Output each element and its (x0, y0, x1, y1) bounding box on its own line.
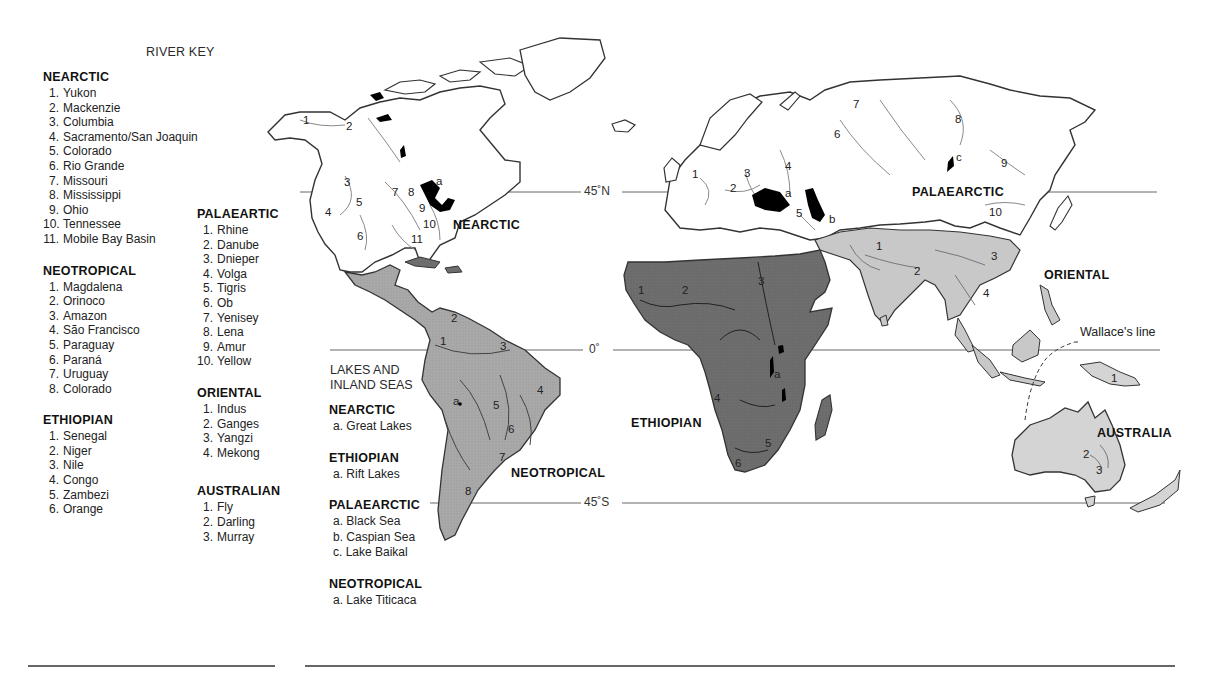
svg-text:3: 3 (758, 275, 764, 287)
svg-text:6: 6 (834, 128, 840, 140)
svg-text:c: c (956, 151, 962, 163)
svg-text:10: 10 (423, 218, 436, 230)
lake-item: a. Lake Titicaca (329, 593, 422, 609)
continent-north-america (268, 38, 635, 273)
lake-group-ethiopian: ETHIOPIAN a. Rift Lakes (329, 451, 422, 483)
latitude-label-45s: 45˚S (581, 495, 612, 509)
svg-text:2: 2 (730, 182, 736, 194)
svg-text:2: 2 (451, 312, 457, 324)
svg-text:7: 7 (853, 98, 859, 110)
svg-text:4: 4 (714, 392, 721, 404)
svg-text:2: 2 (346, 120, 352, 132)
svg-text:1: 1 (1111, 372, 1117, 384)
realm-label-ethiopian: ETHIOPIAN (631, 416, 702, 430)
svg-text:9: 9 (419, 202, 425, 214)
svg-text:4: 4 (325, 206, 332, 218)
realm-heading: PALAEARCTIC (329, 498, 422, 512)
lake-item: b. Caspian Sea (329, 530, 422, 546)
svg-text:6: 6 (735, 457, 741, 469)
svg-text:8: 8 (955, 113, 961, 125)
svg-text:10: 10 (989, 206, 1002, 218)
lakes-key: NEARCTIC a. Great Lakes ETHIOPIAN a. Rif… (329, 403, 422, 608)
svg-text:8: 8 (465, 485, 471, 497)
lakes-key-title: LAKES AND INLAND SEAS (330, 363, 413, 393)
lake-item: a. Great Lakes (329, 419, 422, 435)
bottom-rule-left (28, 665, 275, 667)
region-oriental (815, 228, 1060, 386)
svg-text:a: a (436, 175, 443, 187)
svg-text:a: a (774, 368, 781, 380)
svg-text:6: 6 (357, 230, 363, 242)
svg-text:1: 1 (303, 114, 309, 126)
continent-eurasia (664, 76, 1095, 240)
svg-text:1: 1 (638, 284, 644, 296)
svg-text:3: 3 (991, 250, 997, 262)
svg-text:7: 7 (499, 451, 505, 463)
svg-text:8: 8 (408, 186, 414, 198)
lake-item: a. Black Sea (329, 514, 422, 530)
svg-text:7: 7 (392, 186, 398, 198)
latitude-label-45n: 45˚N (581, 184, 613, 198)
lake-group-nearctic: NEARCTIC a. Great Lakes (329, 403, 422, 435)
world-map: 1234 5678 91011a 1234 5678a 1234 56a 123… (0, 0, 1210, 685)
svg-text:4: 4 (983, 287, 990, 299)
svg-text:a: a (453, 395, 460, 407)
realm-heading: ETHIOPIAN (329, 451, 422, 465)
svg-text:5: 5 (356, 196, 362, 208)
realm-heading: NEARCTIC (329, 403, 422, 417)
svg-text:b: b (829, 213, 835, 225)
svg-text:5: 5 (796, 207, 802, 219)
lake-item: c. Lake Baikal (329, 545, 422, 561)
realm-label-nearctic: NEARCTIC (453, 218, 520, 232)
svg-text:2: 2 (914, 265, 920, 277)
svg-text:2: 2 (1083, 448, 1089, 460)
svg-text:5: 5 (765, 437, 771, 449)
realm-heading: NEOTROPICAL (329, 577, 422, 591)
svg-text:3: 3 (500, 340, 506, 352)
svg-text:4: 4 (785, 160, 792, 172)
lake-item: a. Rift Lakes (329, 467, 422, 483)
svg-text:3: 3 (744, 167, 750, 179)
svg-text:6: 6 (508, 423, 514, 435)
wallaces-line-label: Wallace's line (1080, 325, 1156, 339)
svg-text:9: 9 (1001, 157, 1007, 169)
svg-text:3: 3 (1096, 464, 1102, 476)
realm-label-oriental: ORIENTAL (1044, 268, 1109, 282)
svg-text:1: 1 (440, 335, 446, 347)
svg-text:11: 11 (411, 233, 423, 245)
svg-text:3: 3 (344, 176, 350, 188)
svg-text:4: 4 (537, 384, 544, 396)
svg-text:2: 2 (682, 284, 688, 296)
region-ethiopian (624, 250, 832, 472)
svg-text:5: 5 (493, 399, 499, 411)
realm-label-australia: AUSTRALIA (1097, 426, 1172, 440)
svg-text:a: a (785, 187, 792, 199)
svg-text:1: 1 (876, 240, 882, 252)
lake-group-neotropical: NEOTROPICAL a. Lake Titicaca (329, 577, 422, 609)
realm-label-palaearctic: PALAEARCTIC (912, 185, 1004, 199)
realm-label-neotropical: NEOTROPICAL (511, 466, 605, 480)
bottom-rule-right (305, 665, 1175, 667)
svg-text:1: 1 (692, 168, 698, 180)
lake-group-palaearctic: PALAEARCTIC a. Black Sea b. Caspian Sea … (329, 498, 422, 561)
latitude-label-equator: 0˚ (586, 342, 603, 356)
